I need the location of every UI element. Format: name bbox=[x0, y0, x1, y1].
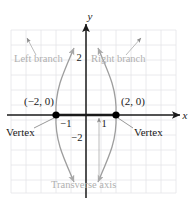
left-branch-label: Left branch bbox=[14, 53, 63, 64]
y-tick-label-2: 2 bbox=[76, 52, 81, 63]
transverse-axis-label: Transverse axis bbox=[51, 179, 116, 190]
hyperbola-graph-svg: x y 2 −2 −1 1 Left branch Right branch T… bbox=[0, 0, 196, 200]
right-vertex-label: Vertex bbox=[134, 126, 163, 138]
right-vertex-coordinate-label: (2, 0) bbox=[121, 95, 145, 108]
x-axis-label: x bbox=[182, 109, 188, 121]
left-vertex-label: Vertex bbox=[6, 126, 35, 138]
left-vertex-coordinate-label: (−2, 0) bbox=[24, 95, 54, 108]
x-tick-label-neg1: −1 bbox=[60, 118, 71, 129]
hyperbola-figure: x y 2 −2 −1 1 Left branch Right branch T… bbox=[0, 0, 196, 200]
x-tick-label-1: 1 bbox=[101, 118, 106, 129]
right-branch-label: Right branch bbox=[91, 53, 146, 64]
left-vertex-point bbox=[52, 111, 59, 118]
right-vertex-point bbox=[112, 111, 119, 118]
y-axis-label: y bbox=[87, 10, 93, 22]
y-tick-label-neg2: −2 bbox=[71, 132, 82, 143]
